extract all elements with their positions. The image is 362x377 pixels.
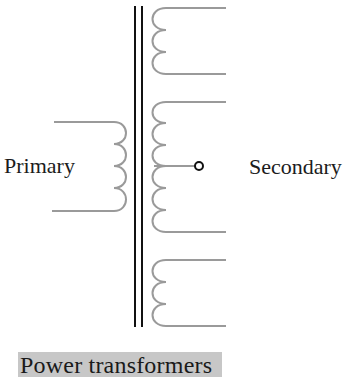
transformer-core [135,6,142,327]
secondary-label: Secondary [249,154,342,179]
secondary-winding-upper [153,8,227,74]
diagram-caption: Power transformers [20,351,212,377]
secondary-winding-lower [153,260,227,326]
center-tap-terminal [195,162,203,170]
primary-label: Primary [4,153,75,178]
transformer-diagram: Primary Secondary [0,0,362,377]
